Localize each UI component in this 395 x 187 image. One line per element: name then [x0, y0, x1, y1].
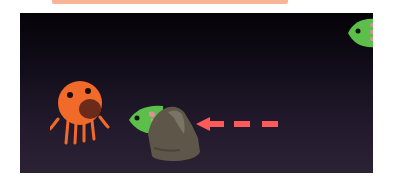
arrow-left-icon: [196, 117, 278, 131]
octopus-icon: [50, 81, 108, 143]
direction-arrow: [196, 116, 284, 132]
octopus-sprite[interactable]: [50, 77, 110, 145]
rock-icon: [148, 107, 200, 161]
top-bar: [52, 0, 288, 4]
game-scene[interactable]: [20, 13, 373, 173]
fish-top-sprite[interactable]: [346, 17, 373, 49]
rock-sprite[interactable]: [146, 104, 202, 162]
fish-icon: [348, 19, 373, 47]
